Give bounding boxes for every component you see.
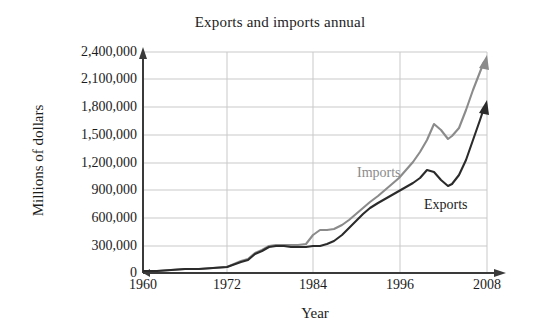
y-tick-2100000: 2,100,000	[45, 71, 137, 87]
x-tick-2008: 2008	[452, 277, 522, 293]
y-tick-1800000: 1,800,000	[45, 99, 137, 115]
x-tick-1996: 1996	[365, 277, 435, 293]
y-tick-900000: 900,000	[45, 182, 137, 198]
y-tick-300000: 300,000	[45, 238, 137, 254]
y-tick-2400000: 2,400,000	[45, 44, 137, 60]
y-tick-1200000: 1,200,000	[45, 155, 137, 171]
y-tick-1500000: 1,500,000	[45, 127, 137, 143]
gridlines	[143, 52, 487, 273]
series-label-imports: Imports	[357, 165, 401, 181]
chart-figure: Exports and imports annual Millions of d…	[0, 0, 560, 334]
x-tick-1984: 1984	[278, 277, 348, 293]
series-label-exports: Exports	[424, 197, 468, 213]
x-tick-1960: 1960	[108, 277, 178, 293]
x-tick-1972: 1972	[192, 277, 262, 293]
y-tick-600000: 600,000	[45, 210, 137, 226]
x-axis-label: Year	[143, 305, 487, 322]
axes	[139, 47, 506, 277]
